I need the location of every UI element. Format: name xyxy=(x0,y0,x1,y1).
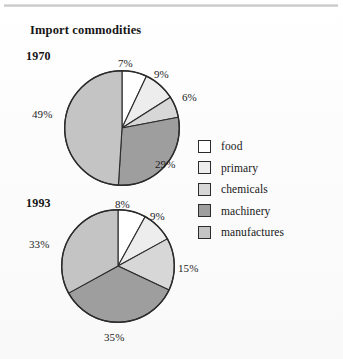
legend-label-manufactures: manufactures xyxy=(221,226,284,238)
legend: food primary chemicals machinery manufac… xyxy=(198,137,284,245)
pct-label-1970-manufactures: 49% xyxy=(32,108,52,120)
chart-year-label-1970: 1970 xyxy=(26,49,51,64)
legend-swatch-machinery-icon xyxy=(198,204,211,217)
pct-label-1993-food: 8% xyxy=(115,198,130,210)
legend-item-primary: primary xyxy=(198,159,284,177)
legend-swatch-manufactures-icon xyxy=(198,226,211,239)
pie-1993-svg xyxy=(60,208,176,324)
pct-label-1993-primary: 9% xyxy=(150,210,165,222)
chart-year-label-1993: 1993 xyxy=(26,196,51,211)
top-divider-rule xyxy=(4,4,338,7)
legend-item-chemicals: chemicals xyxy=(198,180,284,198)
legend-label-food: food xyxy=(221,140,242,152)
pct-label-1993-machinery: 35% xyxy=(104,331,124,343)
pie-chart-1993 xyxy=(60,208,176,324)
import-commodities-figure: Import commodities 1970 7% 9% 6% 29% 49%… xyxy=(0,0,343,359)
legend-label-primary: primary xyxy=(221,162,258,174)
pct-label-1993-manufactures: 33% xyxy=(29,238,49,250)
legend-swatch-primary-icon xyxy=(198,161,211,174)
legend-item-machinery: machinery xyxy=(198,202,284,220)
legend-swatch-food-icon xyxy=(198,140,211,153)
legend-label-chemicals: chemicals xyxy=(221,183,268,195)
legend-swatch-chemicals-icon xyxy=(198,183,211,196)
pie-slice-machinery xyxy=(118,117,179,185)
legend-label-machinery: machinery xyxy=(221,205,270,217)
pct-label-1970-primary: 9% xyxy=(154,68,169,80)
legend-item-manufactures: manufactures xyxy=(198,223,284,241)
pct-label-1970-food: 7% xyxy=(118,57,133,69)
legend-item-food: food xyxy=(198,137,284,155)
pct-label-1970-machinery: 29% xyxy=(155,158,175,170)
pct-label-1993-chemicals: 15% xyxy=(178,262,198,274)
pie-slice-manufactures xyxy=(65,71,122,185)
page-title: Import commodities xyxy=(30,23,141,38)
pct-label-1970-chemicals: 6% xyxy=(182,91,197,103)
